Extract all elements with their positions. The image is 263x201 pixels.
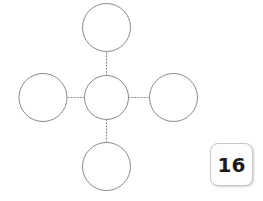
number-tile-value: 16 (218, 155, 246, 175)
top-circle[interactable] (83, 4, 131, 52)
left-circle[interactable] (19, 74, 67, 122)
right-circle[interactable] (150, 74, 198, 122)
number-tile[interactable]: 16 (210, 143, 253, 186)
bottom-circle[interactable] (83, 143, 131, 191)
center-circle[interactable] (85, 76, 129, 120)
worksheet-canvas: 16 (0, 0, 263, 201)
